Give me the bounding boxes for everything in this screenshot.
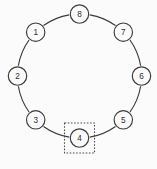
diagram-canvas: 12345678 [0,0,157,169]
ring-link [44,126,70,137]
ring-diagram: 12345678 [0,0,157,169]
ring-node-1[interactable]: 1 [27,23,45,41]
node-2-circle[interactable] [8,67,26,85]
ring-node-6[interactable]: 6 [132,67,150,85]
ring-link [90,15,116,26]
node-6-circle[interactable] [132,67,150,85]
ring-link [44,15,70,26]
ring-node-4[interactable]: 4 [70,129,88,147]
ring-node-7[interactable]: 7 [114,23,132,41]
ring-link [18,86,29,112]
ring-link [130,40,141,66]
node-7-circle[interactable] [114,23,132,41]
node-4-circle[interactable] [70,129,88,147]
ring-node-2[interactable]: 2 [8,67,26,85]
ring-node-5[interactable]: 5 [114,111,132,129]
ring-node-3[interactable]: 3 [27,111,45,129]
ring-nodes-group: 12345678 [8,5,150,147]
node-5-circle[interactable] [114,111,132,129]
ring-link [18,40,29,66]
node-3-circle[interactable] [27,111,45,129]
node-8-circle[interactable] [70,5,88,23]
ring-link [130,86,141,112]
ring-node-8[interactable]: 8 [70,5,88,23]
node-1-circle[interactable] [27,23,45,41]
ring-link [90,126,116,137]
